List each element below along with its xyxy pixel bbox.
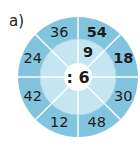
outer-value-7: 24: [23, 50, 41, 66]
outer-value-4: 48: [88, 114, 106, 130]
outer-value-8: 36: [50, 24, 68, 40]
outer-value-3: 30: [114, 88, 132, 104]
division-wheel: 54 18 30 48 12 42 24 36 9 : 6: [0, 0, 140, 147]
operator-label: : 6: [66, 68, 89, 87]
outer-value-1: 54: [87, 24, 107, 40]
outer-value-5: 12: [50, 114, 68, 130]
outer-value-2: 18: [113, 50, 133, 66]
inner-value-1: 9: [83, 44, 93, 60]
outer-value-6: 42: [23, 88, 41, 104]
